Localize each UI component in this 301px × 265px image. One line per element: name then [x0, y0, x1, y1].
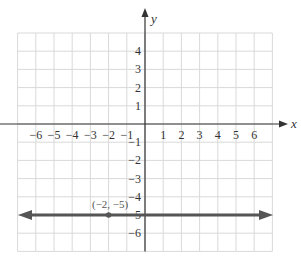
- x-tick-label: 2: [178, 128, 184, 142]
- x-tick-label: −6: [29, 128, 42, 142]
- x-tick-label: 1: [160, 128, 166, 142]
- coordinate-plane: −6−5−4−3−2−11234564321−1−2−3−4−5−6 x y (…: [0, 0, 301, 265]
- point-label: (−2, −5): [92, 198, 129, 211]
- x-tick-label: −4: [66, 128, 79, 142]
- y-tick-label: −4: [128, 190, 141, 204]
- y-tick-label: −6: [128, 226, 141, 240]
- x-tick-label: −3: [84, 128, 97, 142]
- x-tick-label: 6: [251, 128, 257, 142]
- y-tick-label: 3: [135, 62, 141, 76]
- x-tick-label: −5: [48, 128, 61, 142]
- x-tick-label: 4: [215, 128, 221, 142]
- x-tick-label: −2: [102, 128, 115, 142]
- y-tick-label: −2: [128, 153, 141, 167]
- y-tick-label: 1: [135, 99, 141, 113]
- x-axis-label: x: [290, 116, 297, 131]
- y-axis-label: y: [149, 11, 157, 26]
- data-point: [106, 212, 112, 218]
- y-tick-label: 2: [135, 81, 141, 95]
- y-tick-label: −3: [128, 172, 141, 186]
- x-tick-label: 5: [233, 128, 239, 142]
- x-tick-label: 3: [197, 128, 203, 142]
- y-tick-label: −1: [128, 135, 141, 149]
- y-tick-label: 4: [135, 44, 141, 58]
